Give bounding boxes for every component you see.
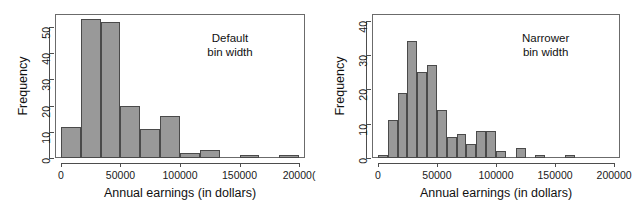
histogram-bar (466, 144, 476, 158)
x-axis-tick-label: 50000 (422, 170, 451, 181)
y-axis-tick-label: 50 (41, 27, 52, 39)
histogram-bar (120, 106, 140, 158)
y-axis-tick-label: 30 (41, 79, 52, 91)
y-axis-tick-label: 40 (41, 53, 52, 65)
annotation-line2-narrower: bin width (522, 45, 569, 59)
y-axis-tick-label: 10 (358, 124, 369, 136)
histogram-bar (61, 127, 81, 158)
histogram-bar (447, 137, 457, 158)
histogram-bar (398, 93, 408, 158)
histogram-panel-default: 05000010000015000020000( 01020304050 Ann… (0, 0, 320, 208)
x-axis-tick-label: 200000 (597, 170, 632, 181)
y-axis-title-default: Frequency (17, 56, 30, 115)
histogram-bar (516, 148, 526, 158)
histogram-bar (101, 22, 121, 158)
two-histogram-figure: 05000010000015000020000( 01020304050 Ann… (0, 0, 641, 208)
x-axis-tick (496, 163, 497, 167)
y-axis-tick-label: 0 (41, 158, 52, 164)
histogram-bar (388, 120, 398, 158)
x-axis-tick (555, 163, 556, 167)
histogram-bar (160, 116, 180, 158)
y-axis-tick-label: 10 (41, 132, 52, 144)
y-axis-tick-label: 30 (358, 55, 369, 67)
histogram-bar (496, 151, 506, 158)
y-axis-tick-label: 20 (358, 89, 369, 101)
x-axis-tick (61, 163, 62, 167)
x-axis-tick (120, 163, 121, 167)
x-axis-tick (299, 163, 300, 167)
x-axis-tick (437, 163, 438, 167)
x-axis-tick-label: 150000 (222, 170, 257, 181)
annotation-default: Default bin width (207, 31, 252, 60)
x-axis-tick (240, 163, 241, 167)
bars-default (55, 14, 305, 158)
y-axis-tick-label: 40 (358, 21, 369, 33)
annotation-line2-default: bin width (207, 45, 252, 59)
y-axis-tick-label: 0 (358, 158, 369, 164)
x-axis-title-default: Annual earnings (in dollars) (104, 187, 256, 200)
histogram-bar (140, 129, 160, 158)
histogram-bar (200, 150, 220, 158)
x-axis-tick-label: 0 (375, 170, 381, 181)
histogram-bar (535, 155, 545, 158)
y-axis-tick-label: 20 (41, 106, 52, 118)
x-axis-tick (378, 163, 379, 167)
x-axis-tick-label: 20000( (283, 170, 316, 181)
histogram-bar (407, 41, 417, 158)
x-axis-tick (614, 163, 615, 167)
histogram-bar (486, 131, 496, 158)
histogram-bar (81, 19, 101, 158)
histogram-bar (180, 153, 200, 158)
histogram-bar (457, 134, 467, 158)
histogram-panel-narrower: 050000100000150000200000 010203040 Annua… (320, 0, 641, 208)
histogram-bar (279, 155, 299, 158)
annotation-line1-narrower: Narrower (522, 31, 569, 45)
bars-narrower (372, 14, 620, 158)
x-axis-tick-label: 0 (58, 170, 64, 181)
histogram-bar (240, 155, 260, 158)
histogram-bar (427, 65, 437, 158)
x-axis-tick-label: 100000 (478, 170, 513, 181)
histogram-bar (476, 131, 486, 158)
x-axis-tick (180, 163, 181, 167)
x-axis-title-narrower: Annual earnings (in dollars) (420, 187, 572, 200)
histogram-bar (417, 72, 427, 158)
histogram-bar (378, 155, 388, 158)
x-axis-tick-label: 150000 (538, 170, 573, 181)
y-axis-title-narrower: Frequency (334, 56, 347, 115)
x-axis-tick-label: 50000 (106, 170, 135, 181)
x-axis-tick-label: 100000 (162, 170, 197, 181)
histogram-bar (565, 155, 575, 158)
annotation-narrower: Narrower bin width (522, 31, 569, 60)
histogram-bar (437, 110, 447, 158)
annotation-line1-default: Default (207, 31, 252, 45)
